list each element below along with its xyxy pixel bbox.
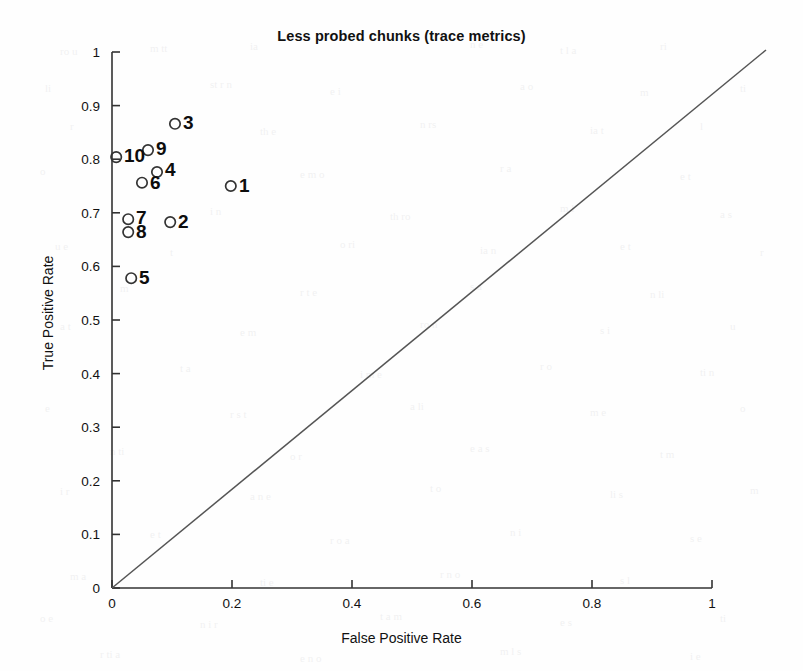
data-point-5	[126, 273, 136, 283]
data-point-markers	[111, 119, 236, 284]
y-tick-label-0: 0	[58, 581, 100, 596]
x-tick-label-0-6: 0.6	[463, 596, 482, 611]
data-point-1	[226, 181, 236, 191]
y-tick-label-0-2: 0.2	[58, 473, 100, 488]
point-label-3: 3	[183, 113, 194, 132]
x-tick-label-1: 1	[708, 596, 716, 611]
x-tick-label-0-4: 0.4	[343, 596, 362, 611]
point-label-4: 4	[165, 160, 176, 179]
data-point-2	[165, 217, 175, 227]
point-label-1: 1	[239, 176, 250, 195]
y-tick-label-0-5: 0.5	[58, 313, 100, 328]
point-label-9: 9	[156, 139, 167, 158]
data-point-6	[137, 178, 147, 188]
x-axis-title: False Positive Rate	[0, 630, 803, 646]
y-tick-label-0-6: 0.6	[58, 259, 100, 274]
point-label-6: 6	[150, 173, 161, 192]
x-axis-ticks	[112, 580, 712, 588]
y-tick-label-1: 1	[58, 45, 100, 60]
data-point-7	[123, 214, 133, 224]
y-axis-title: True Positive Rate	[40, 193, 56, 433]
point-label-5: 5	[139, 268, 150, 287]
y-tick-label-0-4: 0.4	[58, 366, 100, 381]
y-tick-label-0-9: 0.9	[58, 98, 100, 113]
point-label-10: 10	[124, 146, 145, 165]
figure-canvas: ro um ttia n et l ari list r ne i a omti…	[0, 0, 803, 671]
y-tick-label-0-7: 0.7	[58, 205, 100, 220]
data-point-3	[170, 119, 180, 129]
point-label-8: 8	[136, 222, 147, 241]
y-tick-label-0-3: 0.3	[58, 420, 100, 435]
chance-diagonal-line	[112, 50, 766, 588]
data-point-8	[123, 227, 133, 237]
y-tick-label-0-8: 0.8	[58, 152, 100, 167]
x-tick-label-0: 0	[108, 596, 116, 611]
scatter-plot	[0, 0, 803, 671]
x-tick-label-0-2: 0.2	[223, 596, 242, 611]
y-tick-label-0-1: 0.1	[58, 527, 100, 542]
point-label-2: 2	[178, 212, 189, 231]
y-axis-ticks	[112, 52, 120, 588]
x-tick-label-0-8: 0.8	[583, 596, 602, 611]
chart-title: Less probed chunks (trace metrics)	[0, 28, 803, 44]
